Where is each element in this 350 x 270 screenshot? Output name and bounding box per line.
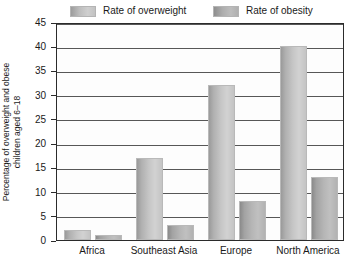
y-tick-label-45: 45 [16, 18, 46, 28]
chart-legend: Rate of overweight Rate of obesity [0, 4, 350, 20]
legend-label-overweight: Rate of overweight [103, 5, 186, 17]
y-tick-label-5: 5 [16, 212, 46, 222]
x-axis-label-north-america: North America [276, 245, 339, 257]
y-axis-title-line-1: Percentage of overweight and obese [1, 63, 12, 201]
legend-swatch-overweight-icon [70, 6, 96, 17]
bar-africa-overweight [64, 230, 91, 240]
y-tick-label-35: 35 [16, 66, 46, 76]
bar-southeast-asia-overweight [136, 158, 163, 240]
bar-europe-overweight [208, 85, 235, 240]
x-axis-labels: AfricaSoutheast AsiaEuropeNorth America [56, 245, 344, 265]
x-axis-label-africa: Africa [79, 245, 105, 257]
bar-group-north-america [280, 24, 338, 240]
bar-north-america-obesity [311, 177, 338, 240]
bar-group-southeast-asia [136, 24, 194, 240]
x-axis-label-southeast-asia: Southeast Asia [131, 245, 198, 257]
bar-chart: Rate of overweight Rate of obesity Perce… [0, 0, 350, 270]
y-tick-label-20: 20 [16, 139, 46, 149]
legend-label-obesity: Rate of obesity [246, 5, 313, 17]
y-tick-label-30: 30 [16, 91, 46, 101]
bar-group-africa [64, 24, 122, 240]
bar-africa-obesity [95, 235, 122, 240]
legend-item-rate-of-overweight: Rate of overweight [70, 4, 186, 18]
y-tick-label-40: 40 [16, 42, 46, 52]
y-axis-title-line-2: children aged 6–18 [12, 63, 23, 201]
y-tick-label-15: 15 [16, 163, 46, 173]
bar-group-europe [208, 24, 266, 240]
y-tick-label-0: 0 [16, 236, 46, 246]
x-axis-label-europe: Europe [220, 245, 252, 257]
bar-europe-obesity [239, 201, 266, 240]
bar-southeast-asia-obesity [167, 225, 194, 240]
plot-area [56, 23, 344, 241]
y-tick-label-25: 25 [16, 115, 46, 125]
y-tick-label-10: 10 [16, 188, 46, 198]
legend-item-rate-of-obesity: Rate of obesity [213, 4, 313, 18]
y-axis-title: Percentage of overweight and obese child… [0, 23, 24, 241]
legend-swatch-obesity-icon [213, 6, 239, 17]
bar-north-america-overweight [280, 46, 307, 240]
